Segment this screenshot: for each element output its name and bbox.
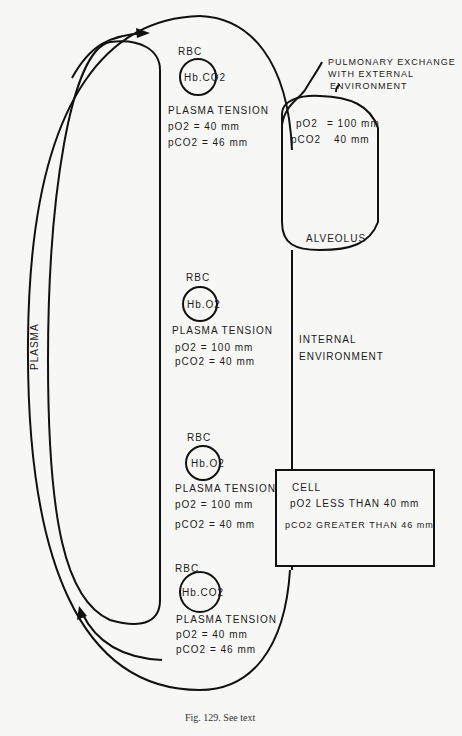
gas-exchange-diagram: PLASMA PULMONARY EXCHANGE WITH EXTERNAL … <box>0 0 462 736</box>
internal-environment-label-1: INTERNAL <box>299 334 356 345</box>
plasma-label: PLASMA <box>29 323 40 370</box>
po2-value: pO2 = 40 mm <box>168 121 240 132</box>
plasma-tension-label: PLASMA TENSION <box>168 105 269 116</box>
rbc-label: RBC <box>186 272 210 283</box>
rbc-label: RBC <box>187 432 211 443</box>
po2-value: pO2 = 40 mm <box>176 629 248 640</box>
hemoglobin-label: Hb.O2 <box>187 299 221 310</box>
internal-environment-label-2: ENVIRONMENT <box>299 351 384 362</box>
alveolus-label: ALVEOLUS <box>306 233 366 244</box>
rbc-station-3: RBC Hb.O2 PLASMA TENSION pO2 = 100 mm pC… <box>175 432 276 530</box>
alveolus-pco2-value: 40 mm <box>334 134 370 145</box>
alveolus-pco2-label: pCO2 <box>291 134 321 145</box>
po2-value: pO2 = 100 mm <box>175 342 253 353</box>
rbc-station-4: RBC Hb.CO2 PLASMA TENSION pO2 = 40 mm pC… <box>175 563 277 655</box>
pco2-value: pCO2 = 46 mm <box>176 644 256 655</box>
pulmonary-label-2: WITH EXTERNAL <box>328 69 414 79</box>
pco2-value: pCO2 = 40 mm <box>175 519 255 530</box>
cell-label: CELL <box>292 482 321 493</box>
inner-loop <box>48 41 160 624</box>
hemoglobin-label: Hb.O2 <box>191 458 225 469</box>
alveolus-po2-label: pO2 <box>296 118 318 129</box>
rbc-label: RBC <box>178 46 202 57</box>
pulmonary-label-3: ENVIRONMENT <box>330 81 408 91</box>
cell-pco2: pCO2 GREATER THAN 46 mm <box>285 520 434 530</box>
pulmonary-label-1: PULMONARY EXCHANGE <box>328 57 456 67</box>
po2-value: pO2 = 100 mm <box>175 499 253 510</box>
plasma-tension-label: PLASMA TENSION <box>172 325 273 336</box>
plasma-tension-label: PLASMA TENSION <box>176 614 277 625</box>
alveolus-po2-value: = 100 mm <box>327 118 380 129</box>
pco2-value: pCO2 = 40 mm <box>175 356 255 367</box>
hemoglobin-label: Hb.CO2 <box>184 72 226 83</box>
outer-loop <box>28 16 200 690</box>
cell-po2: pO2 LESS THAN 40 mm <box>290 498 419 509</box>
figure-caption: Fig. 129. See text <box>185 712 255 723</box>
rbc-station-2: RBC Hb.O2 PLASMA TENSION pO2 = 100 mm pC… <box>172 272 273 367</box>
hemoglobin-label: Hb.CO2 <box>182 587 224 598</box>
plasma-tension-label: PLASMA TENSION <box>175 483 276 494</box>
rbc-station-1: RBC Hb.CO2 PLASMA TENSION pO2 = 40 mm pC… <box>168 46 269 148</box>
pco2-value: pCO2 = 46 mm <box>168 137 248 148</box>
